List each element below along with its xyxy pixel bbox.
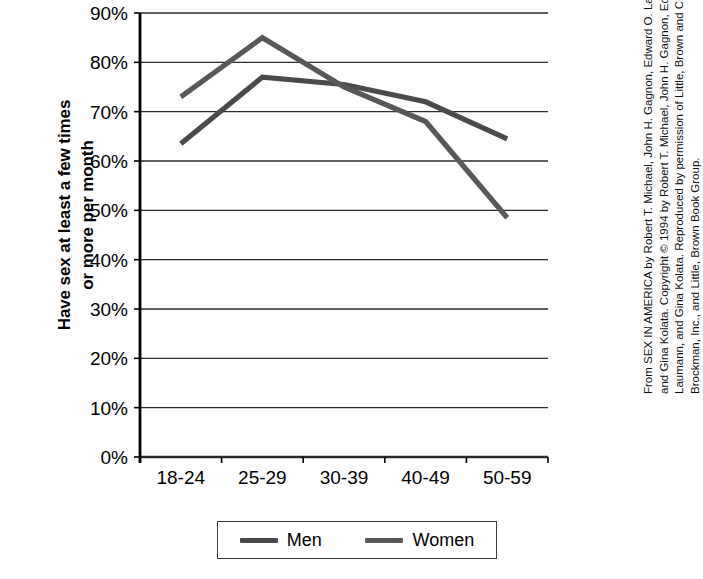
x-axis-tick-label: 50-59 <box>462 466 552 490</box>
credit-line: and Gina Kolata. Copyright © 1994 by Rob… <box>657 0 673 394</box>
data-series-lines <box>181 38 507 218</box>
y-axis-tick-label: 30% <box>68 300 128 319</box>
y-axis-tick-label: 50% <box>68 201 128 220</box>
credit-line: Laumann, and Gina Kolata. Reproduced by … <box>672 0 688 394</box>
legend-line-swatch-icon <box>240 538 278 543</box>
y-axis-tick-label: 0% <box>68 448 128 467</box>
credit-line: From SEX IN AMERICA by Robert T. Michael… <box>641 0 657 394</box>
y-axis-tick-label: 10% <box>68 399 128 418</box>
y-axis-tick-label: 20% <box>68 349 128 368</box>
legend-item-men[interactable]: Men <box>240 531 322 549</box>
x-axis-tick-labels: 18-2425-2930-3940-4950-59 <box>134 466 554 494</box>
x-axis-tick-label: 18-24 <box>136 466 226 490</box>
legend-line-swatch-icon <box>365 538 403 543</box>
y-axis-tick-label: 60% <box>68 152 128 171</box>
series-line-women <box>181 38 507 218</box>
credit-line: Brockman, Inc., and Little, Brown Book G… <box>688 0 703 394</box>
x-axis-tick-label: 30-39 <box>299 466 389 490</box>
chart-legend: MenWomen <box>217 521 497 559</box>
y-axis-tick-label: 40% <box>68 251 128 270</box>
legend-label: Men <box>287 531 322 549</box>
plot-svg <box>134 8 550 463</box>
y-axis-tick-label: 90% <box>68 4 128 23</box>
y-axis-tick-label: 70% <box>68 103 128 122</box>
legend-label: Women <box>412 531 474 549</box>
legend-item-women[interactable]: Women <box>365 531 474 549</box>
x-axis-tick-label: 40-49 <box>381 466 471 490</box>
y-axis-tick-labels: 0%10%20%30%40%50%60%70%80%90% <box>58 0 128 470</box>
plot-area <box>134 8 550 463</box>
x-axis-tick-label: 25-29 <box>217 466 307 490</box>
y-axis-tick-label: 80% <box>68 53 128 72</box>
